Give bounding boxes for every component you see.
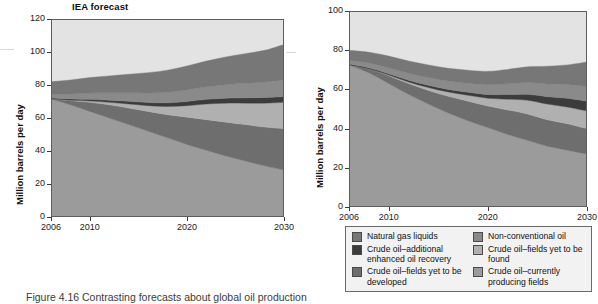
- plot-left-y-tick-label: 20: [19, 178, 45, 188]
- chart-panel-left: IEA forecast Million barrels per day 020…: [0, 0, 292, 290]
- plot-left-x-tick-mark: [51, 217, 52, 221]
- plot-left-y-tick-label: 100: [19, 46, 45, 56]
- plot-right-y-tick-mark: [345, 11, 349, 12]
- plot-right-svg: [349, 11, 587, 207]
- plot-right-x-tick-label: 2010: [369, 212, 409, 222]
- plot-left-svg: [51, 19, 284, 217]
- plot-left-y-tick-mark: [47, 151, 51, 152]
- legend-item[interactable]: Crude oil–currently producing fields: [473, 266, 586, 286]
- right-chart-plot-area: [349, 11, 587, 207]
- legend-swatch-icon: [473, 267, 483, 277]
- plot-right-y-tick-label: 60: [317, 83, 343, 93]
- plot-left-y-tick-mark: [47, 85, 51, 86]
- plot-left-x-tick-mark: [187, 217, 188, 221]
- plot-left-y-tick-label: 80: [19, 79, 45, 89]
- plot-right-y-tick-label: 100: [317, 5, 343, 15]
- legend-item[interactable]: Crude oil–additional enhanced oil recove…: [352, 244, 465, 264]
- right-chart-y-axis-label: Million barrels per day: [314, 87, 325, 188]
- legend-item[interactable]: Natural gas liquids: [352, 231, 465, 242]
- left-chart-plot-area: [51, 19, 284, 217]
- legend-swatch-icon: [352, 232, 362, 242]
- legend-item-label: Crude oil–fields yet to be developed: [367, 266, 465, 286]
- plot-left-y-tick-mark: [47, 184, 51, 185]
- legend-swatch-icon: [473, 232, 483, 242]
- legend-item-label: Crude oil–currently producing fields: [488, 266, 586, 286]
- plot-left-y-tick-mark: [47, 52, 51, 53]
- plot-left-y-tick-label: 60: [19, 112, 45, 122]
- plot-left-x-tick-mark: [90, 217, 91, 221]
- plot-right-y-tick-mark: [345, 50, 349, 51]
- legend-swatch-icon: [473, 245, 483, 255]
- legend-grid: Natural gas liquidsNon-conventional oilC…: [352, 231, 586, 287]
- legend-item-label: Non-conventional oil: [488, 231, 566, 241]
- plot-right-x-tick-mark: [587, 207, 588, 211]
- plot-left-x-tick-label: 2020: [167, 222, 207, 232]
- plot-left-y-tick-label: 0: [19, 211, 45, 221]
- plot-right-x-tick-label: 2006: [329, 212, 369, 222]
- plot-right-y-tick-mark: [345, 168, 349, 169]
- plot-right-x-tick-label: 2020: [468, 212, 508, 222]
- figure-root: IEA forecast Million barrels per day 020…: [0, 0, 598, 304]
- plot-right-x-tick-label: 2030: [567, 212, 598, 222]
- plot-right-y-tick-label: 80: [317, 44, 343, 54]
- plot-right-y-tick-mark: [345, 129, 349, 130]
- legend-item[interactable]: Crude oil–fields yet to be developed: [352, 266, 465, 286]
- plot-right-x-tick-mark: [488, 207, 489, 211]
- plot-right-x-tick-mark: [389, 207, 390, 211]
- plot-right-x-tick-mark: [349, 207, 350, 211]
- plot-right-y-tick-label: 20: [317, 162, 343, 172]
- legend-item[interactable]: Crude oil–fields yet to be found: [473, 244, 586, 264]
- plot-left-x-tick-label: 2010: [70, 222, 110, 232]
- legend-item-label: Crude oil–additional enhanced oil recove…: [367, 244, 465, 264]
- plot-right-y-tick-mark: [345, 89, 349, 90]
- plot-left-x-tick-mark: [284, 217, 285, 221]
- legend-item-label: Crude oil–fields yet to be found: [488, 244, 586, 264]
- plot-right-y-tick-label: 40: [317, 123, 343, 133]
- legend-swatch-icon: [352, 245, 362, 255]
- plot-left-y-tick-mark: [47, 118, 51, 119]
- legend: Natural gas liquidsNon-conventional oilC…: [345, 226, 592, 292]
- plot-left-y-tick-label: 120: [19, 13, 45, 23]
- plot-left-y-tick-label: 40: [19, 145, 45, 155]
- legend-item-label: Natural gas liquids: [367, 231, 438, 241]
- plot-right-y-tick-label: 0: [317, 201, 343, 211]
- plot-left-x-tick-label: 2006: [31, 222, 71, 232]
- plot-left-y-tick-mark: [47, 19, 51, 20]
- left-chart-title: IEA forecast: [72, 1, 128, 12]
- figure-caption: Figure 4.16 Contrasting forecasts about …: [26, 291, 566, 303]
- legend-item[interactable]: Non-conventional oil: [473, 231, 586, 242]
- legend-swatch-icon: [352, 267, 362, 277]
